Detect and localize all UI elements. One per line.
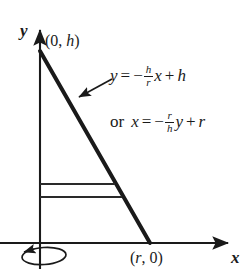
eq1-numerator: h (144, 64, 154, 76)
point-bottom-x: r (135, 249, 141, 266)
eq2-denominator: h (165, 122, 175, 135)
point-top-y: h (66, 32, 74, 49)
eq1-denominator: r (144, 76, 152, 89)
equation-slope-intercept-y: y = − h r x + h (110, 64, 186, 88)
eq2-fraction: r h (165, 110, 175, 134)
eq1-constant: h (177, 66, 186, 86)
eq1-plus: + (165, 66, 175, 86)
x-axis-label: x (231, 249, 240, 266)
rotation-ellipse (21, 246, 66, 266)
eq1-lhs: y (110, 66, 118, 86)
eq2-equals: = (142, 112, 152, 132)
eq2-lhs: x (131, 112, 139, 132)
cone-volume-figure: y x (0, h) (r, 0) y = − h r x + h or x =… (0, 0, 250, 269)
point-top-x: 0 (50, 32, 58, 49)
y-axis-label: y (20, 22, 28, 39)
eq2-constant: r (199, 112, 206, 132)
eq2-numerator: r (166, 110, 174, 122)
eq1-fraction: h r (144, 64, 154, 88)
figure-graphics (0, 0, 250, 269)
point-label-bottom: (r, 0) (130, 250, 163, 266)
eq2-plus: + (186, 112, 196, 132)
eq2-conjunction: or (110, 112, 124, 132)
eq1-minus: − (133, 66, 143, 86)
eq2-minus: − (154, 112, 164, 132)
leader-arrow (79, 79, 112, 97)
eq2-variable: y (175, 112, 183, 132)
point-bottom-y: 0 (150, 249, 158, 266)
eq1-equals: = (121, 66, 131, 86)
eq1-variable: x (154, 66, 162, 86)
point-label-top: (0, h) (45, 33, 80, 49)
equation-slope-intercept-x: or x = − r h y + r (110, 110, 205, 134)
